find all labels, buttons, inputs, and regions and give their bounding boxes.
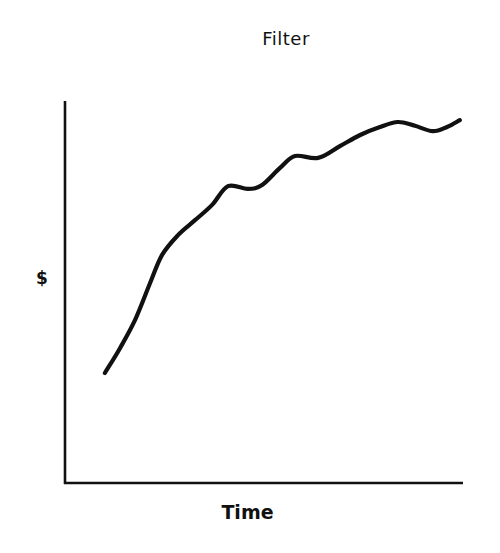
line-chart <box>0 0 500 553</box>
data-line <box>105 120 460 373</box>
